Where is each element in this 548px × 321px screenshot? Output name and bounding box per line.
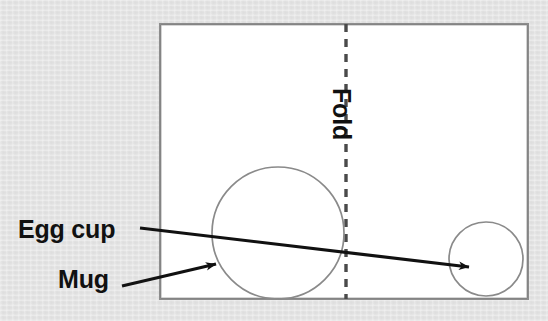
diagram-stage: Egg cup Mug Fold: [0, 0, 548, 321]
mug-label: Mug: [58, 265, 109, 293]
fold-label: Fold: [328, 88, 356, 140]
paper-sheet: [160, 24, 528, 299]
figure-canvas: Egg cup Mug Fold: [0, 0, 548, 321]
egg-cup-label: Egg cup: [18, 215, 115, 243]
